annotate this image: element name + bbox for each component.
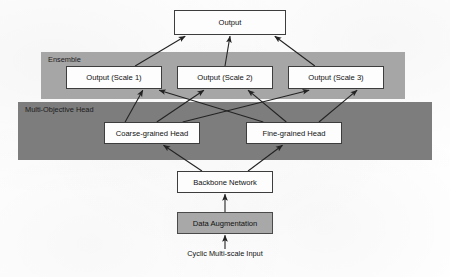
node-backbone-network[interactable]: Backbone Network: [177, 171, 273, 193]
diagram-canvas: Ensemble Multi-Objective Head Output Out…: [0, 0, 450, 277]
node-fine-grained-head[interactable]: Fine-grained Head: [246, 122, 342, 144]
node-data-augmentation[interactable]: Data Augmentation: [177, 212, 273, 234]
band-ensemble-label: Ensemble: [48, 55, 81, 64]
node-output-scale-1[interactable]: Output (Scale 1): [66, 66, 162, 89]
node-output-scale-2[interactable]: Output (Scale 2): [177, 66, 273, 89]
node-coarse-grained-head[interactable]: Coarse-grained Head: [104, 122, 200, 144]
node-output[interactable]: Output: [174, 10, 286, 35]
node-output-scale-3[interactable]: Output (Scale 3): [288, 66, 384, 89]
caption-cyclic-multi-scale-input: Cyclic Multi-scale Input: [139, 249, 311, 258]
band-multi-objective-head-label: Multi-Objective Head: [25, 105, 94, 114]
